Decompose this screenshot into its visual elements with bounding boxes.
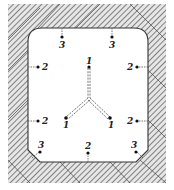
label-top-right-3: 3 xyxy=(109,40,115,50)
label-bottom-left-3: 3 xyxy=(38,140,44,150)
point-marker-bottom-left-3 xyxy=(38,150,41,153)
point-marker-bottom-right-3 xyxy=(134,150,137,153)
point-marker-top-left-3 xyxy=(60,35,63,38)
point-marker-left-lower-2 xyxy=(36,119,39,122)
point-marker-bottom-center-2 xyxy=(86,151,89,154)
point-marker-left-upper-2 xyxy=(36,65,39,68)
label-bottom-center-2: 2 xyxy=(84,141,91,151)
hatched-wall xyxy=(8,4,166,183)
label-top-left-3: 3 xyxy=(59,40,65,50)
point-marker-top-right-3 xyxy=(110,35,113,38)
label-right-lower-2: 2 xyxy=(126,116,133,126)
label-center-left-1: 1 xyxy=(63,120,69,130)
label-center-right-1: 1 xyxy=(108,120,114,130)
point-marker-right-lower-2 xyxy=(135,119,138,122)
point-marker-right-upper-2 xyxy=(135,65,138,68)
label-right-upper-2: 2 xyxy=(126,62,133,72)
label-left-upper-2: 2 xyxy=(41,62,48,72)
label-bottom-right-3: 3 xyxy=(131,140,137,150)
label-left-lower-2: 2 xyxy=(41,116,48,126)
chamber-cross-section-diagram: 3 3 2 2 1 2 2 1 1 3 2 3 xyxy=(0,0,174,190)
label-center-top-1: 1 xyxy=(86,56,92,66)
